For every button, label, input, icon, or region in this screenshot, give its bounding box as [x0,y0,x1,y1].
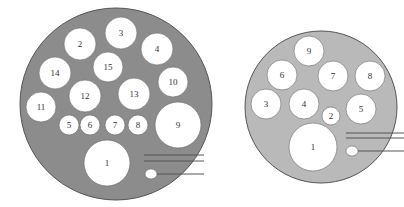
hole-label: 13 [130,89,140,99]
right-hole-3: 3 [251,89,281,119]
hole-label: 4 [302,99,307,109]
left-hole-9: 9 [155,102,201,148]
left-hole-7: 7 [105,115,125,135]
right-small-hole [346,146,358,156]
left-hole-2: 2 [64,28,96,60]
right-hole-8: 8 [355,61,385,91]
hole-label: 7 [331,71,336,81]
hole-label: 9 [176,120,181,130]
left-disc-diagram: 123456789101112131415 [20,8,212,200]
right-hole-4: 4 [289,89,319,119]
right-hole-7: 7 [318,61,348,91]
left-hole-12: 12 [69,80,101,112]
hole-label: 1 [311,142,316,152]
right-hole-1: 1 [289,123,337,171]
left-hole-4: 4 [141,33,173,65]
hole-label: 15 [104,62,114,72]
hole-label: 3 [264,99,269,109]
hole-label: 8 [136,120,141,130]
right-hole-2: 2 [322,107,340,125]
hole-label: 7 [113,120,118,130]
hole-label: 6 [280,70,285,80]
right-hole-6: 6 [267,60,297,90]
left-small-hole [145,169,157,179]
hole-label: 11 [37,102,46,112]
hole-label: 4 [155,44,160,54]
hole-label: 12 [81,91,90,101]
left-hole-13: 13 [118,78,150,110]
hole-label: 9 [307,46,312,56]
left-hole-3: 3 [105,17,137,49]
left-hole-15: 15 [93,52,123,82]
left-hole-5: 5 [59,115,79,135]
hole-label: 10 [169,77,179,87]
hole-label: 6 [88,120,93,130]
hole-label: 3 [119,28,124,38]
left-hole-11: 11 [26,92,56,122]
right-hole-5: 5 [346,94,376,124]
hole-label: 8 [368,71,373,81]
hole-label: 5 [67,120,72,130]
hole-label: 5 [359,104,364,114]
left-hole-14: 14 [39,57,71,89]
hole-label: 14 [51,68,61,78]
hole-label: 2 [329,111,334,121]
left-hole-8: 8 [128,115,148,135]
left-hole-10: 10 [158,67,188,97]
right-disc-diagram: 123456789 [245,31,404,183]
left-hole-6: 6 [80,115,100,135]
hole-label: 1 [105,158,110,168]
hole-label: 2 [78,39,83,49]
diagram-canvas: 123456789101112131415 123456789 [0,0,404,207]
left-hole-1: 1 [84,140,130,186]
right-hole-9: 9 [294,36,324,66]
